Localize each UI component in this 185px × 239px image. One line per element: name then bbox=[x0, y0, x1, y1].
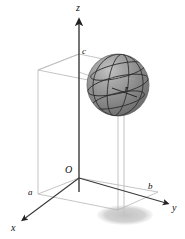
sphere bbox=[86, 51, 150, 119]
y-axis-label: y bbox=[171, 202, 177, 213]
dimension-label-a: a bbox=[28, 187, 33, 197]
x-axis bbox=[24, 178, 79, 219]
sphere-ground-shadow bbox=[97, 205, 153, 225]
coordinate-system-diagram: z x y O a b c r bbox=[0, 0, 185, 239]
x-axis-label: x bbox=[10, 222, 16, 233]
dimension-label-b: b bbox=[148, 181, 153, 191]
y-axis bbox=[79, 178, 166, 203]
dimension-label-c: c bbox=[82, 46, 86, 56]
origin-label: O bbox=[65, 164, 72, 175]
z-axis-label: z bbox=[75, 2, 80, 13]
figure-container: z x y O a b c r bbox=[0, 0, 185, 239]
sphere-body bbox=[87, 54, 149, 116]
box-wireframe-bottom-plane bbox=[38, 178, 158, 210]
